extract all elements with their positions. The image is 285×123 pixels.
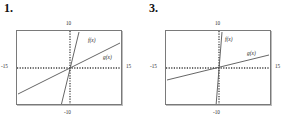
function-label-g: g(x) [103, 55, 112, 60]
axis-label-right: 15 [126, 64, 131, 69]
problem-1: 1. 10 -10 -15 15 f(x) g(x) [0, 0, 142, 123]
function-label-f: f(x) [88, 38, 95, 43]
axis-label-left: -15 [150, 64, 157, 69]
plot-graphic [17, 31, 121, 104]
problem-3: 3. 10 -10 -15 15 f(x) g(x) [142, 0, 285, 123]
plot-area [166, 31, 270, 104]
axis-label-bottom: -10 [213, 110, 220, 115]
problem-number: 3. [149, 1, 158, 16]
plot-frame: f(x) g(x) [16, 30, 122, 105]
axis-label-right: 15 [275, 64, 280, 69]
axis-label-top: 10 [215, 21, 220, 26]
problem-number: 1. [4, 1, 13, 16]
function-label-f: f(x) [225, 37, 232, 42]
axis-label-bottom: -10 [64, 110, 71, 115]
axis-label-left: -15 [1, 64, 8, 69]
plot-graphic [166, 31, 270, 104]
plot-frame: f(x) g(x) [165, 30, 271, 105]
plot-area [17, 31, 121, 104]
function-label-g: g(x) [247, 51, 256, 56]
axis-label-top: 10 [66, 21, 71, 26]
